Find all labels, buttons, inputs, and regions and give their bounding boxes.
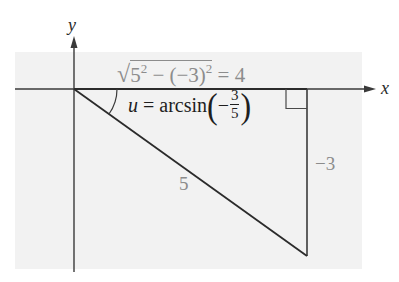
- y-axis-arrow-icon: [71, 36, 78, 48]
- fraction-denominator: 5: [231, 105, 239, 121]
- term2-base: (−3): [170, 63, 206, 87]
- radical-sign-icon: √: [117, 61, 130, 87]
- x-axis-arrow-icon: [364, 86, 376, 93]
- y-axis-label: y: [68, 16, 76, 34]
- minus-sign: −: [147, 63, 169, 87]
- term2-exponent: 2: [206, 61, 213, 76]
- square-root: √52 − (−3)2: [117, 60, 212, 86]
- adjacent-side-formula: √52 − (−3)2 = 4: [117, 60, 245, 86]
- angle-formula: u = arcsin ( − 3 5 ): [128, 88, 251, 121]
- arcsin-text: = arcsin: [138, 95, 207, 115]
- arcsin-triangle-diagram: y x √52 − (−3)2 = 4 u = arcsin ( − 3 5 )…: [0, 0, 399, 282]
- fraction: 3 5: [230, 88, 240, 121]
- fraction-numerator: 3: [230, 88, 240, 105]
- angle-variable: u: [128, 95, 138, 115]
- opposite-side-label: −3: [315, 154, 335, 173]
- x-axis-label: x: [381, 79, 389, 97]
- negative-sign: −: [218, 95, 229, 115]
- open-paren: (: [207, 86, 218, 123]
- term1-base: 5: [130, 63, 141, 87]
- close-paren: ): [240, 86, 251, 123]
- diagram-graphics: [0, 0, 399, 282]
- hypotenuse-label: 5: [179, 174, 189, 193]
- radicand: 52 − (−3)2: [130, 60, 212, 86]
